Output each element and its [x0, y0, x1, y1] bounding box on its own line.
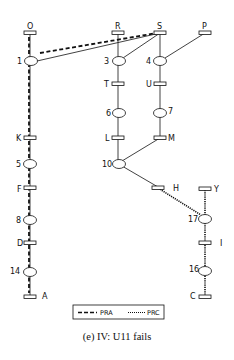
label-S: S	[157, 22, 162, 31]
transition-C	[199, 295, 211, 299]
transition-L	[112, 136, 124, 140]
transition-F	[24, 186, 36, 190]
label-T: T	[103, 80, 109, 89]
label-4: 4	[146, 57, 151, 66]
label-U: U	[146, 80, 152, 89]
place-5	[24, 160, 37, 169]
label-6: 6	[106, 109, 111, 118]
legend-label-prc: PRC	[147, 309, 160, 317]
petri-net-diagram: O R S P T U K L M F H Y D I A C 1 3 4 6 …	[0, 0, 234, 360]
transition-T	[112, 82, 124, 86]
label-M: M	[168, 134, 175, 143]
transition-M	[154, 136, 166, 140]
transition-I	[199, 241, 211, 245]
transition-D	[24, 241, 36, 245]
place-4	[154, 57, 167, 66]
figure-caption: (e) IV: U11 fails	[83, 331, 152, 343]
label-A: A	[42, 292, 48, 301]
place-8	[24, 216, 37, 225]
transition-S	[154, 31, 166, 35]
place-16	[199, 267, 212, 276]
transition-H	[152, 186, 164, 190]
legend: PRA PRC	[73, 305, 164, 319]
label-L: L	[105, 134, 110, 143]
label-5: 5	[16, 160, 21, 169]
transition-O	[24, 31, 36, 35]
label-14: 14	[10, 267, 20, 276]
places	[24, 57, 212, 277]
label-Y: Y	[213, 185, 219, 194]
label-10: 10	[102, 160, 112, 169]
transition-K	[24, 136, 36, 140]
label-R: R	[115, 22, 121, 31]
label-16: 16	[189, 265, 199, 274]
label-D: D	[17, 239, 23, 248]
transition-Y	[199, 187, 211, 191]
place-14	[24, 268, 37, 277]
label-P: P	[202, 22, 207, 31]
label-3: 3	[104, 57, 109, 66]
label-17: 17	[188, 215, 198, 224]
label-8: 8	[16, 216, 21, 225]
place-6	[113, 109, 126, 118]
label-K: K	[16, 134, 22, 143]
place-3	[113, 57, 126, 66]
label-O: O	[27, 22, 33, 31]
prc-path	[158, 188, 205, 295]
transition-A	[24, 295, 36, 299]
label-C: C	[190, 292, 196, 301]
transition-U	[154, 82, 166, 86]
place-17	[199, 215, 212, 224]
place-7	[154, 109, 167, 118]
pra-path	[29, 33, 157, 293]
label-I: I	[220, 239, 222, 248]
legend-label-pra: PRA	[100, 309, 113, 317]
label-H: H	[173, 184, 179, 193]
transition-R	[112, 31, 124, 35]
transition-P	[199, 31, 211, 35]
place-1	[25, 57, 38, 66]
label-1: 1	[17, 57, 22, 66]
label-F: F	[17, 185, 22, 194]
place-10	[113, 160, 126, 169]
label-7: 7	[168, 107, 173, 116]
